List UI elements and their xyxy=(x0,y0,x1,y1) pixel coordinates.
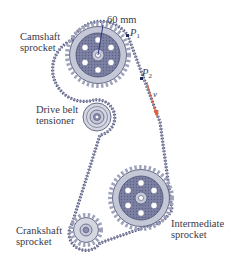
label-drive-belt-tensioner: Drive belt tensioner xyxy=(36,104,78,126)
label-line: tensioner xyxy=(36,115,78,126)
p2-subscript: 2 xyxy=(148,72,152,80)
label-line: Camshaft xyxy=(20,31,60,42)
label-point-p1: P1 xyxy=(130,27,140,42)
label-line: sprocket xyxy=(171,229,224,240)
label-crankshaft-sprocket: Crankshaft sprocket xyxy=(16,225,62,247)
label-camshaft-sprocket: Camshaft sprocket xyxy=(20,31,60,53)
label-line: Crankshaft xyxy=(16,225,62,236)
camshaft-sprocket xyxy=(67,24,129,86)
label-point-p2: P2 xyxy=(142,67,152,82)
crankshaft-sprocket xyxy=(71,215,101,245)
label-dimension-60mm: 60 mm xyxy=(107,14,136,25)
point-p1-marker xyxy=(126,34,129,37)
tensioner-pulley xyxy=(83,103,111,131)
velocity-arrow xyxy=(147,82,159,118)
label-line: sprocket xyxy=(20,42,60,53)
label-line: Drive belt xyxy=(36,104,78,115)
intermediate-sprocket xyxy=(110,167,172,229)
p1-subscript: 1 xyxy=(136,32,140,40)
label-line: sprocket xyxy=(16,236,62,247)
label-intermediate-sprocket: Intermediate sprocket xyxy=(171,218,224,240)
label-velocity-v: v xyxy=(153,89,157,100)
label-line: Intermediate xyxy=(171,218,224,229)
